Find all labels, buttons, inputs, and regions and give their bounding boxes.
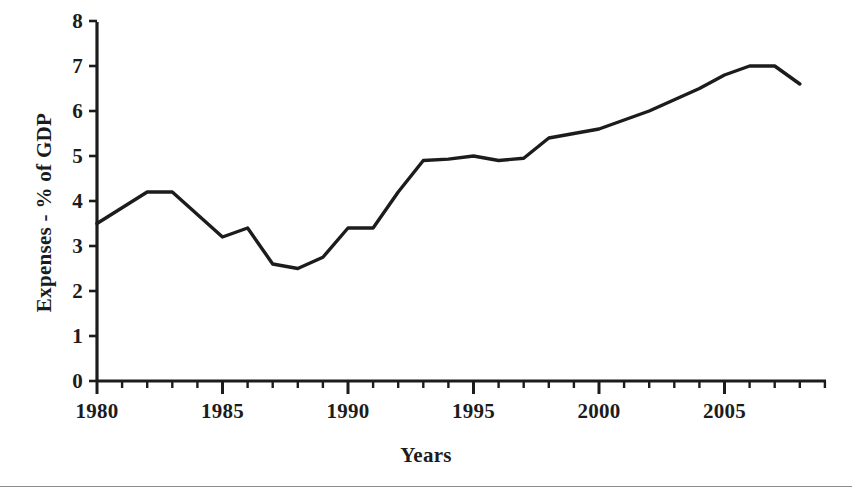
- x-axis-tick-label: 1995: [452, 399, 495, 424]
- y-axis-title: Expenses - % of GDP: [32, 63, 57, 363]
- y-axis-tick-label: 8: [51, 9, 83, 34]
- x-axis-title: Years: [0, 443, 852, 468]
- x-axis-tick-label: 1990: [327, 399, 370, 424]
- x-axis-tick-label: 1980: [76, 399, 119, 424]
- chart-axes: [97, 22, 826, 381]
- x-axis-tick-label: 2005: [703, 399, 746, 424]
- data-line-expenses-pct-gdp: [97, 66, 800, 269]
- x-axis-tick-label: 2000: [578, 399, 621, 424]
- page-bottom-rule: [0, 486, 852, 487]
- x-axis-tick-label: 1985: [201, 399, 244, 424]
- y-axis-tick-label: 0: [51, 369, 83, 394]
- figure-container: 012345678 198019851990199520002005 Expen…: [0, 0, 852, 496]
- chart-tick-marks: [89, 21, 825, 394]
